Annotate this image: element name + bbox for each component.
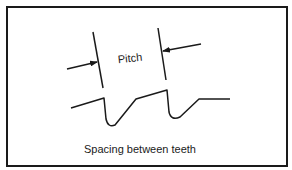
pitch-diagram: Pitch Spacing between teeth — [0, 0, 292, 170]
diagram-caption: Spacing between teeth — [84, 143, 196, 155]
pitch-label: Pitch — [117, 51, 143, 65]
pitch-extension-line-right — [158, 28, 166, 80]
pitch-arrow-left — [67, 62, 97, 69]
saw-tooth-profile — [71, 90, 230, 126]
pitch-arrow-right — [163, 44, 201, 51]
pitch-extension-line-left — [93, 32, 103, 88]
